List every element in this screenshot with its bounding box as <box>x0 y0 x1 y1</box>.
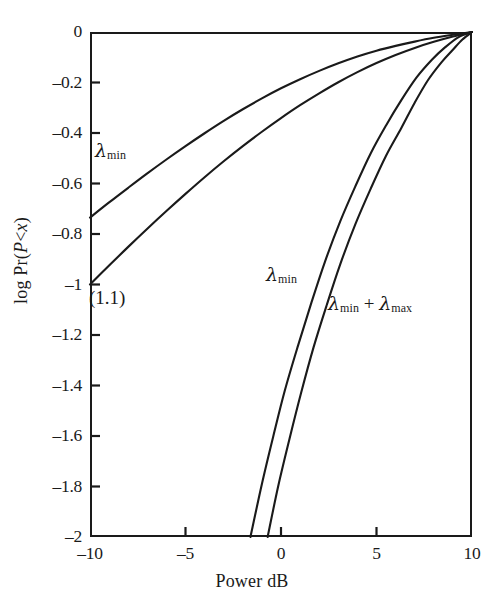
curve-series-1 <box>90 32 472 285</box>
lambda-subscript-max: max <box>391 301 412 315</box>
y-tick-label: –0.2 <box>38 74 82 92</box>
y-title-mid: < <box>11 231 31 241</box>
figure-root: 0–0.2–0.4–0.6–0.8–1–1.2–1.4–1.6–1.8–2 λm… <box>0 0 504 608</box>
y-axis-tick-labels: 0–0.2–0.4–0.6–0.8–1–1.2–1.4–1.6–1.8–2 <box>36 0 82 608</box>
annotation-lambda-min-upper: λmin <box>95 141 126 162</box>
x-axis-tick-labels: –10–50510 <box>0 545 504 569</box>
lambda-subscript-min: min <box>107 148 126 162</box>
y-tick-label: –0.8 <box>38 225 82 243</box>
y-axis-title: log Pr(P<x) <box>11 176 32 346</box>
y-tick-label: –1.2 <box>38 326 82 344</box>
y-tick-label: –0.6 <box>38 175 82 193</box>
y-tick-label: –1 <box>38 276 82 294</box>
lambda-subscript-min: min <box>278 272 297 286</box>
x-tick-label: 5 <box>372 545 380 563</box>
x-axis-title: Power dB <box>0 571 504 592</box>
curve-series-3 <box>268 32 472 537</box>
y-title-pre: log Pr( <box>11 253 31 304</box>
annotation-lambda-min-plus-max: λmin + λmax <box>328 294 412 315</box>
plus-sign: + <box>359 293 379 314</box>
lambda-glyph: λ <box>266 263 278 285</box>
lambda-glyph: λ <box>95 139 107 161</box>
annotation-lambda-min-steep: λmin <box>266 265 297 286</box>
x-tick-label: 10 <box>464 545 481 563</box>
y-tick-label: –1.8 <box>38 478 82 496</box>
annotation-equation-ref: (1.1) <box>89 288 125 307</box>
lambda-glyph: λ <box>328 292 340 314</box>
x-tick-label: –10 <box>77 545 102 563</box>
y-tick-label: –2 <box>38 528 82 546</box>
y-title-italic-x: x <box>11 223 31 231</box>
curve-series-0 <box>90 32 472 218</box>
x-tick-label: 0 <box>277 545 285 563</box>
y-title-italic-P: P <box>11 242 31 253</box>
lambda-glyph-2: λ <box>379 292 391 314</box>
y-tick-label: –1.4 <box>38 377 82 395</box>
y-tick-label: –0.4 <box>38 124 82 142</box>
x-tick-label: –5 <box>177 545 194 563</box>
y-tick-label: –1.6 <box>38 427 82 445</box>
y-tick-label: 0 <box>38 23 82 41</box>
y-title-post: ) <box>11 217 31 223</box>
lambda-subscript-min: min <box>340 301 359 315</box>
